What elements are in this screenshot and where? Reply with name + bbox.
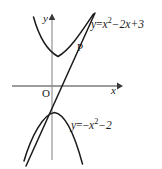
y-axis-label: y — [43, 13, 48, 24]
origin-label: O — [42, 88, 50, 99]
lower-eq-rest: −2 — [98, 119, 112, 131]
y-axis-arrowhead — [49, 14, 56, 21]
lower-eq-equals: =− — [76, 119, 89, 131]
upper-equation-label: y=x2−2x+3 — [91, 17, 144, 30]
upper-eq-rest: −2x+3 — [112, 18, 144, 30]
figure-container: y=x2−2x+3 y=−x2−2 P O x y — [0, 0, 162, 169]
x-axis — [12, 83, 123, 90]
lower-equation-label: y=−x2−2 — [71, 118, 112, 131]
point-p-label: P — [77, 42, 83, 53]
x-axis-arrowhead — [117, 83, 123, 90]
tangent-line — [26, 13, 95, 166]
x-axis-label: x — [111, 85, 116, 96]
